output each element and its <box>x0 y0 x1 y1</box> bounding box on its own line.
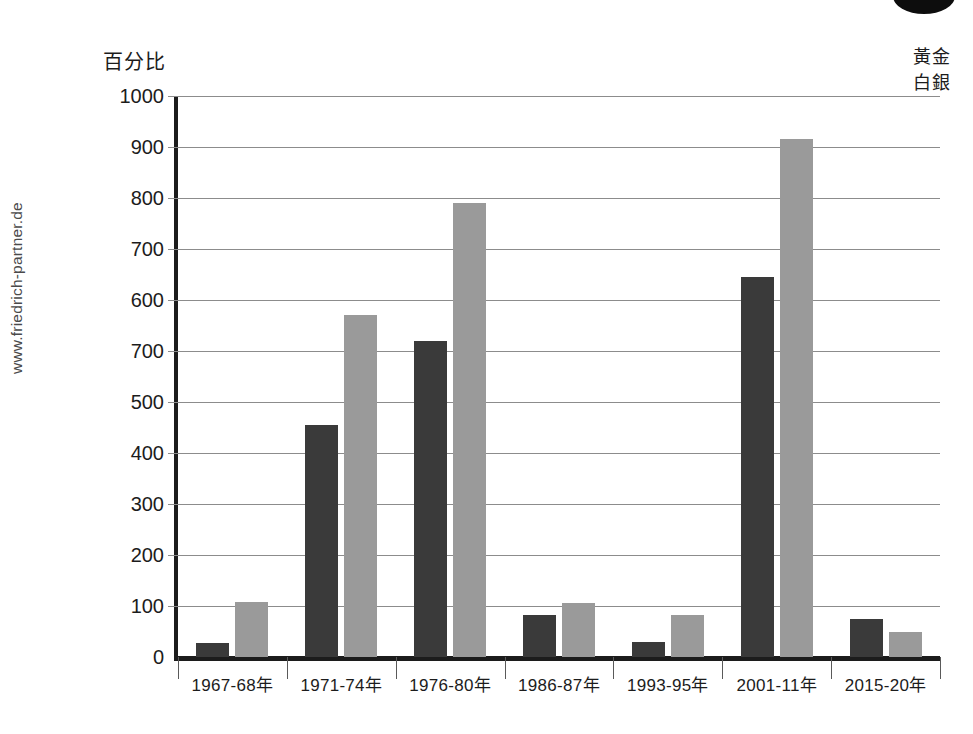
y-axis-tick-label: 300 <box>131 493 164 516</box>
category-separator <box>613 657 614 679</box>
gridline <box>178 351 940 352</box>
bar-gold <box>305 425 338 657</box>
gridline <box>178 402 940 403</box>
legend-item-silver: 白銀 <box>913 70 951 96</box>
x-axis-line <box>174 656 940 661</box>
bar-silver <box>780 139 813 657</box>
corner-blob-artifact <box>893 0 955 14</box>
gridline <box>178 198 940 199</box>
x-axis-category-label: 1993-95年 <box>627 671 709 696</box>
x-axis-category-label: 1976-80年 <box>409 671 491 696</box>
y-axis-tick-label: 100 <box>131 595 164 618</box>
y-axis-tick-label: 900 <box>131 136 164 159</box>
x-axis-category-label: 2001-11年 <box>736 671 817 696</box>
x-axis-category-label: 1971-74年 <box>300 671 382 696</box>
x-axis-category-label: 1986-87年 <box>518 671 600 696</box>
y-axis-tick <box>168 198 178 199</box>
y-axis-tick <box>168 96 178 97</box>
bar-silver <box>235 602 268 657</box>
y-axis-tick-label: 700 <box>131 340 164 363</box>
y-axis-line <box>174 96 178 657</box>
category-separator <box>287 657 288 679</box>
category-separator <box>831 657 832 679</box>
category-separator <box>505 657 506 679</box>
gridline <box>178 147 940 148</box>
bar-gold <box>523 615 556 657</box>
y-axis-tick <box>168 249 178 250</box>
x-axis-category-label: 2015-20年 <box>845 671 927 696</box>
bar-gold <box>196 643 229 657</box>
y-axis-tick-label: 700 <box>131 238 164 261</box>
y-axis-tick-label: 0 <box>153 646 164 669</box>
bar-silver <box>889 632 922 658</box>
y-axis-tick-label: 500 <box>131 391 164 414</box>
bar-silver <box>453 203 486 657</box>
gridline <box>178 504 940 505</box>
y-axis-tick <box>168 300 178 301</box>
x-axis-category-label: 1967-68年 <box>192 671 274 696</box>
y-axis-tick-label: 200 <box>131 544 164 567</box>
bar-silver <box>344 315 377 657</box>
gridline <box>178 453 940 454</box>
watermark-text: www.friedrich-partner.de <box>6 124 28 374</box>
legend-item-gold: 黃金 <box>913 44 951 70</box>
y-axis-tick <box>168 402 178 403</box>
bar-gold <box>414 341 447 657</box>
y-axis-tick <box>168 504 178 505</box>
y-axis-tick <box>168 453 178 454</box>
category-separator <box>178 657 179 679</box>
category-separator <box>722 657 723 679</box>
category-separator <box>940 657 941 679</box>
y-axis-tick <box>168 555 178 556</box>
y-axis-tick <box>168 606 178 607</box>
gridline <box>178 606 940 607</box>
y-axis-tick-label: 400 <box>131 442 164 465</box>
chart-legend: 黃金 白銀 <box>913 44 951 96</box>
y-axis-tick-label: 1000 <box>120 85 165 108</box>
bar-gold <box>741 277 774 657</box>
plot-area: 100090080070060070050040030020010001967-… <box>178 96 940 657</box>
bar-gold <box>632 642 665 657</box>
gridline <box>178 96 940 97</box>
y-axis-tick-label: 600 <box>131 289 164 312</box>
category-separator <box>396 657 397 679</box>
gridline <box>178 249 940 250</box>
y-axis-tick <box>168 351 178 352</box>
bar-silver <box>671 615 704 657</box>
y-axis-tick <box>168 147 178 148</box>
bar-gold <box>850 619 883 657</box>
bar-silver <box>562 603 595 657</box>
gridline <box>178 300 940 301</box>
y-axis-tick-label: 800 <box>131 187 164 210</box>
y-axis-title: 百分比 <box>103 46 166 75</box>
chart-figure: www.friedrich-partner.de 百分比 黃金 白銀 10009… <box>0 0 973 734</box>
gridline <box>178 555 940 556</box>
